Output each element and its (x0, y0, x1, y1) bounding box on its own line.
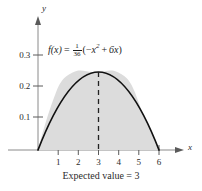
y-axis-arrowhead (35, 16, 41, 25)
x-tick-label-1: 1 (52, 157, 64, 167)
expected-value-figure: 0.3 0.2 0.1 1 2 3 4 5 6 y x f(x)=136(−x2… (0, 0, 202, 191)
y-tick-label-0-2: 0.2 (8, 81, 30, 91)
equation-equals: = (64, 44, 70, 55)
equation-fraction: 136 (73, 43, 82, 58)
y-axis-label: y (42, 3, 46, 13)
x-tick-label-3: 3 (93, 157, 105, 167)
fraction-numerator: 1 (73, 43, 82, 50)
y-tick-label-0-3: 0.3 (8, 50, 30, 60)
equation-plus: + (101, 44, 107, 55)
x-tick-label-2: 2 (72, 157, 84, 167)
fraction-denominator: 36 (73, 50, 82, 58)
x-tick-label-5: 5 (133, 157, 145, 167)
x-tick-label-4: 4 (113, 157, 125, 167)
x-axis-label: x (188, 142, 192, 152)
function-equation-label: f(x)=136(−x2+6x) (48, 43, 122, 58)
equation-six-x: 6x (109, 44, 118, 55)
equation-close-paren: ) (119, 44, 122, 55)
y-tick-label-0-1: 0.1 (8, 112, 30, 122)
x-axis-arrowhead (175, 147, 184, 153)
equation-exponent: 2 (96, 42, 100, 50)
figure-caption: Expected value = 3 (0, 170, 202, 181)
equation-lhs: f(x) (48, 44, 62, 55)
x-tick-label-6: 6 (153, 157, 165, 167)
